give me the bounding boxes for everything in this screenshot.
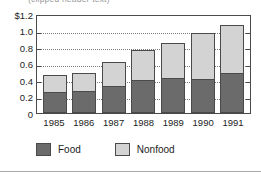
bar-segment-food[interactable] [72,91,96,113]
y-axis-labels: 00.20.40.60.81.0$1.2 [0,11,35,117]
x-tick-label: 1987 [100,117,128,131]
bar-segment-food[interactable] [102,86,126,113]
bar-segment-nonfood[interactable] [161,43,185,78]
bar-segment-nonfood[interactable] [43,75,67,92]
y-tick-label: 0.4 [20,77,33,86]
y-tick-label: 0.2 [20,93,33,102]
y-tick-label: 0.6 [20,60,33,69]
legend-swatch-food [36,143,51,156]
x-axis-labels: 1985198619871988198919901991 [36,117,251,131]
y-tick-label: 1.0 [20,27,33,36]
stacked-bar[interactable] [72,73,96,113]
x-tick-label: 1985 [40,117,68,131]
y-tick-label: 0.8 [20,44,33,53]
chart-page: (clipped header text) 00.20.40.60.81.0$1… [0,0,261,177]
bar-segment-food[interactable] [191,79,215,113]
stacked-bar[interactable] [131,50,155,113]
stacked-bar[interactable] [191,33,215,113]
bar-segment-nonfood[interactable] [220,25,244,74]
plot-area [36,15,251,114]
footer-divider [0,171,261,172]
x-tick-label: 1989 [159,117,187,131]
legend-label: Nonfood [137,144,175,155]
x-tick-label: 1986 [70,117,98,131]
bar-segment-food[interactable] [131,80,155,113]
bar-segment-nonfood[interactable] [72,73,96,91]
stacked-bar[interactable] [43,75,67,113]
bar-group [37,16,250,113]
y-tick-label: 0 [28,110,33,119]
stacked-bar[interactable] [102,62,126,113]
stacked-bar[interactable] [161,43,185,113]
clipped-title-text: (clipped header text) [28,0,110,4]
clipped-title-strip: (clipped header text) [0,0,261,9]
legend-label: Food [58,144,81,155]
bar-segment-food[interactable] [161,78,185,113]
y-tick-label: $1.2 [15,11,34,20]
legend-item-nonfood[interactable]: Nonfood [115,143,175,156]
chart-legend: FoodNonfood [36,140,236,158]
legend-item-food[interactable]: Food [36,143,81,156]
bar-segment-food[interactable] [43,92,67,113]
bar-segment-nonfood[interactable] [131,50,155,80]
x-tick-label: 1988 [129,117,157,131]
legend-swatch-nonfood [115,143,130,156]
bar-segment-food[interactable] [220,73,244,113]
x-tick-label: 1990 [189,117,217,131]
bar-segment-nonfood[interactable] [102,62,126,86]
bar-segment-nonfood[interactable] [191,33,215,79]
stacked-bar[interactable] [220,25,244,113]
x-tick-label: 1991 [219,117,247,131]
